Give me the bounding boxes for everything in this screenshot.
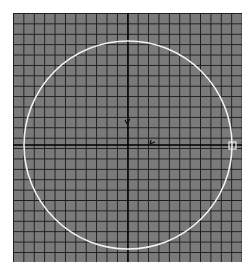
origin-gizmo: [125, 119, 155, 144]
x-axis-arrow-icon: [150, 140, 155, 144]
scene-overlay: [0, 0, 252, 274]
